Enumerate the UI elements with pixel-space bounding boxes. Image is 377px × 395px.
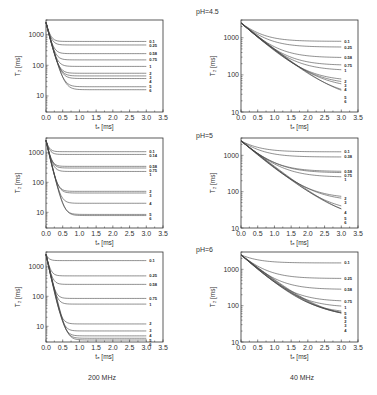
y-tick-label: 1000 (28, 149, 44, 156)
x-tick-label: 0.5 (58, 230, 68, 237)
x-tick-label: 2.5 (125, 230, 135, 237)
y-tick-label: 1000 (223, 34, 239, 41)
curve-0.1 (241, 255, 341, 263)
x-tick-label: 0.0 (41, 230, 51, 237)
curve-1 (46, 254, 146, 304)
plot-frame (241, 20, 358, 112)
x-tick-label: 0.5 (253, 230, 263, 237)
y-tick-label: 1000 (28, 263, 44, 270)
curve-label: 0.25 (149, 43, 158, 48)
y-tick-label: 10 (231, 339, 239, 346)
curve-5 (241, 255, 341, 311)
curve-label: 1 (344, 68, 347, 73)
curve-label: 4 (149, 201, 152, 206)
curve-3 (46, 22, 146, 76)
x-tick-label: 1.5 (91, 114, 101, 121)
curve-label: 6 (149, 216, 152, 221)
curve-label: 1 (149, 64, 152, 69)
x-tick-label: 3.5 (353, 114, 363, 121)
x-tick-label: 2.0 (303, 114, 313, 121)
x-tick-label: 2.5 (125, 344, 135, 351)
curve-1 (241, 141, 341, 177)
x-tick-label: 1.0 (75, 114, 85, 121)
x-axis-label: tₑ [ms] (95, 353, 113, 361)
curve-label: 0.1 (344, 260, 350, 265)
curve-0.58 (46, 140, 146, 166)
y-tick-label: 10 (36, 323, 44, 330)
x-tick-label: 0.0 (41, 344, 51, 351)
x-tick-label: 3.0 (141, 230, 151, 237)
x-axis-label: tₑ [ms] (290, 239, 308, 247)
y-tick-label: 100 (227, 71, 239, 78)
curve-5 (46, 254, 146, 338)
x-tick-label: 0.5 (253, 344, 263, 351)
curve-label: 3 (149, 193, 152, 198)
x-tick-label: 2.0 (108, 230, 118, 237)
x-tick-label: 2.0 (108, 344, 118, 351)
y-tick-label: 100 (227, 188, 239, 195)
x-axis-label: tₑ [ms] (95, 239, 113, 247)
chart-panel-2: 0.00.51.01.52.02.53.03.5tₑ [ms]101001000… (209, 20, 363, 131)
curve-label: 0.1 (149, 258, 155, 263)
y-tick-label: 100 (32, 293, 44, 300)
y-axis-label: T₂ [ms] (14, 287, 22, 308)
curve-label: 0.75 (149, 296, 158, 301)
chart-panel-3: 0.00.51.01.52.02.53.03.5tₑ [ms]101001000… (14, 138, 168, 247)
y-axis-label: T₂ [ms] (14, 56, 22, 77)
y-tick-label: 1000 (28, 31, 44, 38)
x-tick-label: 1.5 (286, 344, 296, 351)
curve-label: 1 (149, 302, 152, 307)
y-tick-label: 10 (36, 92, 44, 99)
ph-label: pH=5 (196, 132, 213, 140)
curve-4 (46, 22, 146, 78)
x-tick-label: 0.0 (41, 114, 51, 121)
chart-panel-5: 0.00.51.01.52.02.53.03.5tₑ [ms]101001000… (14, 252, 168, 361)
x-tick-label: 1.0 (270, 230, 280, 237)
curve-1 (46, 140, 146, 171)
x-tick-label: 3.5 (158, 344, 168, 351)
y-axis-label: T₂ [ms] (14, 173, 22, 194)
ph-label: pH=6 (196, 246, 213, 254)
curve-6 (241, 255, 341, 312)
curve-0.1 (241, 141, 341, 152)
x-tick-label: 3.0 (336, 344, 346, 351)
curve-label: 0.75 (344, 63, 353, 68)
y-axis-label: T₂ [ms] (209, 173, 217, 194)
curve-5 (241, 23, 341, 89)
y-tick-label: 1000 (223, 266, 239, 273)
x-tick-label: 3.5 (158, 114, 168, 121)
curve-label: 0.25 (344, 276, 353, 281)
curve-0.58 (46, 254, 146, 284)
curve-0.58 (241, 255, 341, 289)
chart-panel-6: 0.00.51.01.52.02.53.03.5tₑ [ms]101001000… (209, 252, 363, 361)
curve-0.1 (46, 22, 146, 41)
curve-2 (241, 141, 341, 196)
curve-3 (46, 254, 146, 331)
curve-label: 0.25 (149, 273, 158, 278)
curve-label: 4 (344, 87, 347, 92)
plot-frame (46, 252, 163, 342)
curve-6 (46, 22, 146, 89)
curve-label: 1 (344, 305, 347, 310)
figure-canvas: 0.00.51.01.52.02.53.03.5tₑ [ms]101001000… (0, 0, 377, 395)
curve-2 (241, 23, 341, 79)
curve-2 (46, 22, 146, 73)
curve-label: 0.58 (344, 287, 353, 292)
curve-label: 6 (344, 220, 347, 225)
x-tick-label: 2.5 (125, 114, 135, 121)
curve-label: 0.25 (344, 45, 353, 50)
x-tick-label: 2.5 (320, 344, 330, 351)
curve-label: 4 (344, 210, 347, 215)
x-tick-label: 1.5 (91, 230, 101, 237)
curve-label: 0.58 (149, 51, 158, 56)
curve-3 (46, 140, 146, 193)
curve-label: 6 (149, 88, 152, 93)
curve-0.1 (46, 254, 146, 260)
curve-label: 0.1 (344, 39, 350, 44)
chart-panel-1: 0.00.51.01.52.02.53.03.5tₑ [ms]101001000… (14, 20, 168, 131)
y-tick-label: 10 (231, 225, 239, 232)
ph-label: pH=4.5 (196, 8, 219, 16)
curve-label: 6 (149, 342, 152, 347)
x-axis-label: tₑ [ms] (95, 123, 113, 131)
curve-label: 0.38 (344, 154, 353, 159)
